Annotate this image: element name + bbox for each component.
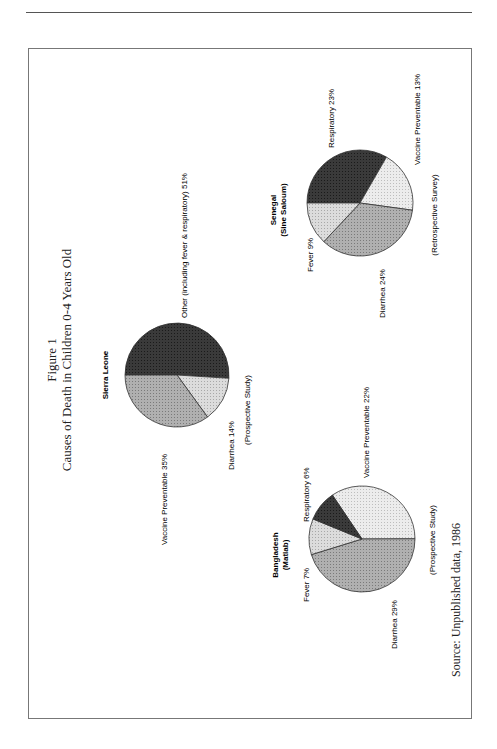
pie-slices — [125, 323, 229, 427]
pie-title: Senegal — [269, 195, 278, 226]
slice-label-diarrhea: Diarrhea 14% — [227, 421, 236, 470]
figure-canvas: Figure 1 Causes of Death in Children 0-4… — [0, 0, 497, 749]
figure-title-block: Figure 1 Causes of Death in Children 0-4… — [44, 248, 74, 471]
pie-title: Sierra Leone — [101, 350, 110, 399]
slice-label-vaccine-preventable: Vaccine Preventable 35% — [160, 454, 169, 545]
pie-subtitle: (Matlab) — [281, 539, 290, 570]
slice-label-fever: Fever 7% — [302, 568, 311, 602]
pie-slice-other-including-fever-respiratory — [125, 323, 229, 378]
slice-label-vaccine-preventable: Vaccine Preventable 22% — [362, 387, 371, 478]
slice-label-other: Other (including fever & respiratory) 51… — [180, 173, 189, 318]
figure-label: Figure 1 — [44, 338, 59, 382]
pie-slices — [309, 486, 415, 592]
source-note-group: Source: Unpublished data, 1986 — [449, 523, 463, 677]
slice-label-diarrhea: Diarrhea 29% — [390, 600, 399, 649]
slice-label-respiratory: Respiratory 6% — [302, 467, 311, 522]
pie-subtitle: (Sine Saloum) — [279, 183, 288, 237]
pie-slices — [307, 150, 413, 256]
pie-chart-senegal: Senegal (Sine Saloum) Respiratory 23% Va… — [269, 74, 439, 318]
study-note: (Prospective Study) — [428, 505, 437, 575]
source-note: Source: Unpublished data, 1986 — [449, 523, 463, 677]
slice-label-vaccine-preventable: Vaccine Preventable 13% — [413, 74, 422, 165]
study-note: (Retrospective Survey) — [430, 174, 439, 256]
slice-label-diarrhea: Diarrhea 24% — [378, 269, 387, 318]
pie-title: Bangladesh — [271, 532, 280, 577]
figure-title: Causes of Death in Children 0-4 Years Ol… — [59, 248, 74, 471]
slice-label-respiratory: Respiratory 23% — [327, 89, 336, 148]
study-note: (Prospective Study) — [243, 375, 252, 445]
pie-chart-sierra-leone: Sierra Leone Other (including fever & re… — [101, 173, 252, 545]
slice-label-fever: Fever 9% — [306, 238, 315, 272]
pie-chart-bangladesh: Bangladesh (Matlab) Vaccine Preventable … — [271, 387, 437, 649]
